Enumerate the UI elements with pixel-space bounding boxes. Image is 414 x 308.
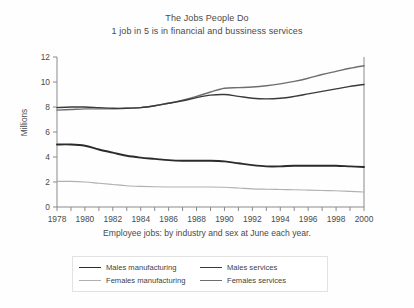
svg-text:1982: 1982 xyxy=(103,214,122,224)
svg-text:1980: 1980 xyxy=(76,214,95,224)
legend-grid: Males manufacturing Males services Femal… xyxy=(79,261,321,287)
legend-line-icon xyxy=(200,267,222,268)
legend-item-males-services: Males services xyxy=(200,263,321,272)
svg-text:2000: 2000 xyxy=(355,214,374,224)
svg-text:2: 2 xyxy=(45,177,50,187)
svg-text:1992: 1992 xyxy=(243,214,262,224)
svg-text:4: 4 xyxy=(45,152,50,162)
legend-item-females-services: Females services xyxy=(200,276,321,285)
svg-text:1988: 1988 xyxy=(187,214,206,224)
svg-text:12: 12 xyxy=(41,52,51,62)
svg-text:1978: 1978 xyxy=(48,214,67,224)
legend-label: Males services xyxy=(227,263,277,272)
chart-caption: Employee jobs: by industry and sex at Ju… xyxy=(0,228,414,238)
legend-line-icon xyxy=(200,280,222,281)
legend-label: Females manufacturing xyxy=(106,276,185,285)
legend-item-females-manufacturing: Females manufacturing xyxy=(79,276,200,285)
chart-figure: The Jobs People Do 1 job in 5 is in fina… xyxy=(0,0,414,308)
svg-text:1996: 1996 xyxy=(299,214,318,224)
svg-text:1986: 1986 xyxy=(159,214,178,224)
legend-line-icon xyxy=(79,267,101,268)
svg-text:0: 0 xyxy=(45,202,50,212)
legend-label: Females services xyxy=(227,276,286,285)
svg-text:1990: 1990 xyxy=(215,214,234,224)
svg-text:10: 10 xyxy=(41,77,51,87)
svg-text:6: 6 xyxy=(45,127,50,137)
legend-label: Males manufacturing xyxy=(106,263,177,272)
chart-legend: Males manufacturing Males services Femal… xyxy=(72,256,328,292)
svg-text:8: 8 xyxy=(45,102,50,112)
svg-text:1994: 1994 xyxy=(271,214,290,224)
svg-text:1998: 1998 xyxy=(327,214,346,224)
legend-item-males-manufacturing: Males manufacturing xyxy=(79,263,200,272)
legend-line-icon xyxy=(79,280,101,281)
svg-text:1984: 1984 xyxy=(131,214,150,224)
